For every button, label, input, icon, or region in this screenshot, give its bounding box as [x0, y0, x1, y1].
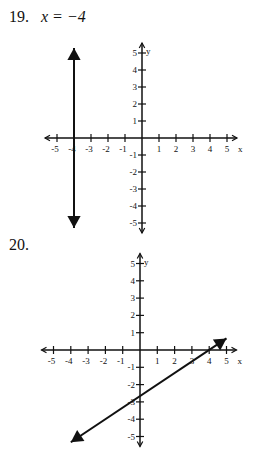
y-tick-label: 5: [131, 259, 136, 269]
x-tick-label: 1: [155, 356, 160, 366]
x-tick-label: -4: [65, 356, 73, 366]
line-arrow-start-icon: [71, 430, 85, 442]
y-tick-label: 2: [131, 310, 136, 320]
line-arrow-end-icon: [213, 338, 227, 350]
x-tick-label: -3: [82, 356, 90, 366]
y-tick-label: 4: [131, 276, 136, 286]
plotted-line: [71, 338, 227, 442]
y-tick-label: 3: [131, 293, 136, 303]
y-axis-label: y: [144, 257, 149, 267]
x-tick-label: -1: [117, 356, 125, 366]
x-tick-label: 5: [224, 356, 229, 366]
y-tick-label: 1: [131, 328, 136, 338]
graph-20: -5-4-3-2-11234554321-1-2-3-4-5xy: [0, 0, 258, 469]
x-tick-label: 2: [172, 356, 177, 366]
y-tick-label: -1: [128, 362, 136, 372]
x-tick-label: 4: [207, 356, 212, 366]
x-tick-label: -5: [48, 356, 56, 366]
y-tick-label: -4: [128, 414, 136, 424]
y-tick-label: -5: [128, 432, 136, 442]
x-axis-label: x: [238, 356, 243, 366]
x-tick-label: -2: [100, 356, 108, 366]
y-tick-label: -2: [128, 380, 136, 390]
